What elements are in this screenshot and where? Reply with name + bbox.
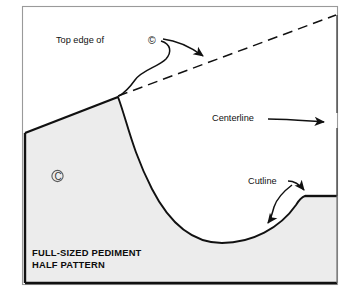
- centerline-label: Centerline: [212, 113, 254, 123]
- top-edge-dashed-line: [118, 15, 336, 96]
- pattern-title-line-1: FULL-SIZED PEDIMENT: [32, 247, 142, 258]
- pattern-copyright-mark: C: [52, 170, 63, 181]
- top-edge-label: Top edge of: [56, 35, 104, 45]
- pediment-pattern-diagram: Top edge of © Centerline Cutline C FULL-…: [0, 0, 358, 301]
- top-edge-leader-curve: [119, 41, 170, 96]
- centerline-leader-arrow: [268, 119, 324, 122]
- cutline-label: Cutline: [248, 176, 277, 186]
- pattern-copyright-glyph: C: [54, 171, 61, 182]
- top-edge-copyright-symbol: ©: [148, 34, 156, 46]
- diagram-canvas: Top edge of © Centerline Cutline C FULL-…: [0, 0, 358, 301]
- pattern-title-line-2: HALF PATTERN: [32, 259, 105, 270]
